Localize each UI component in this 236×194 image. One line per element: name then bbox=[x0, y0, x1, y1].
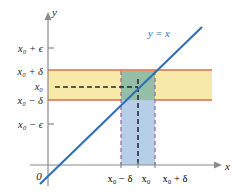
y-tick-label-x0-minus-delta: x₀ − δ bbox=[16, 95, 44, 106]
epsilon-delta-limit-figure: x₀ + ϵ x₀ + δ x₀ x₀ − δ x₀ − ϵ x₀ − δ x₀… bbox=[0, 0, 236, 194]
y-tick-label-x0-plus-delta: x₀ + δ bbox=[16, 66, 44, 77]
x-axis-label: x bbox=[224, 160, 230, 172]
y-axis-arrowhead bbox=[45, 12, 52, 20]
origin-label: 0 bbox=[36, 170, 42, 182]
identity-line-label: y = x bbox=[147, 28, 170, 39]
x-tick-label-x0-minus-delta: x₀ − δ bbox=[107, 173, 132, 184]
y-tick-label-x0-plus-epsilon: x₀ + ϵ bbox=[17, 43, 44, 54]
x-tick-label-x0-plus-delta: x₀ + δ bbox=[162, 173, 187, 184]
y-axis-label: y bbox=[51, 6, 57, 18]
x-axis-arrowhead bbox=[214, 162, 222, 169]
y-tick-label-x0: x₀ bbox=[34, 81, 44, 92]
x-tick-label-x0: x₀ bbox=[142, 173, 151, 184]
y-tick-label-x0-minus-epsilon: x₀ − ϵ bbox=[17, 119, 44, 130]
